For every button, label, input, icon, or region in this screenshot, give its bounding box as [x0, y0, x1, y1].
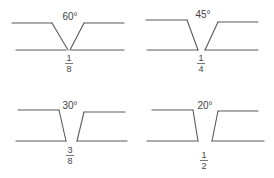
groove-edge-line: [52, 23, 68, 50]
gap-denominator: 4: [198, 64, 203, 74]
groove-angle-diagram: 60° 1 8 45° 1 4 30° 3 8 20° 1 2: [0, 0, 274, 178]
angle-label-60: 60°: [62, 11, 77, 22]
gap-numerator: 3: [67, 145, 72, 155]
groove-edge-line: [77, 112, 84, 141]
gap-denominator: 8: [66, 64, 71, 74]
angle-label-45: 45°: [195, 9, 210, 20]
angle-label-30: 30°: [62, 100, 77, 111]
gap-numerator: 1: [201, 150, 206, 160]
groove-edge-line: [187, 20, 198, 50]
gap-numerator: 1: [198, 53, 203, 63]
panel-45-degree: 45° 1 4: [146, 9, 258, 74]
gap-numerator: 1: [66, 53, 71, 63]
gap-fraction-30: 3 8: [66, 145, 74, 166]
groove-profile-45: [146, 20, 258, 50]
groove-profile-60: [12, 23, 124, 50]
gap-denominator: 8: [67, 156, 72, 166]
groove-edge-line: [70, 23, 84, 50]
groove-edge-line: [212, 111, 218, 141]
groove-edge-line: [193, 110, 198, 141]
groove-profile-30: [16, 110, 127, 141]
gap-denominator: 2: [201, 161, 206, 171]
gap-fraction-45: 1 4: [197, 53, 205, 74]
panel-20-degree: 20° 1 2: [147, 100, 264, 171]
groove-edge-line: [59, 110, 66, 141]
panel-60-degree: 60° 1 8: [12, 11, 124, 74]
groove-profile-20: [147, 110, 264, 141]
panel-30-degree: 30° 3 8: [16, 100, 127, 166]
angle-label-20: 20°: [197, 100, 212, 111]
groove-edge-line: [205, 22, 218, 50]
gap-fraction-60: 1 8: [65, 53, 73, 74]
gap-fraction-20: 1 2: [200, 150, 208, 171]
